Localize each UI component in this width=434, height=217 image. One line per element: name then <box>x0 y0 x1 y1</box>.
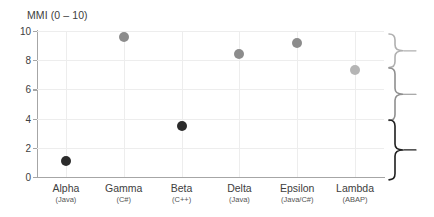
gridline-vertical <box>124 31 125 177</box>
x-axis-label-language: (Java/C#) <box>280 194 314 205</box>
gridline-horizontal <box>37 119 384 120</box>
y-axis-tick-mark <box>33 89 37 90</box>
x-axis-label-language: (C#) <box>105 194 142 205</box>
bottom-band-brace <box>388 120 404 180</box>
gridline-vertical <box>182 31 183 177</box>
gridline-vertical <box>355 31 356 177</box>
mmi-scatter-chart: MMI (0 – 10) 0246810 Alpha(Java)Gamma(C#… <box>0 0 434 217</box>
x-axis-label-delta: Delta(Java) <box>227 182 252 205</box>
x-axis-label-alpha: Alpha(Java) <box>52 182 79 205</box>
data-point[interactable] <box>177 121 187 131</box>
data-point[interactable] <box>234 49 244 59</box>
plot-area <box>37 31 384 177</box>
gridline-horizontal <box>37 60 384 61</box>
x-axis-label-gamma: Gamma(C#) <box>105 182 142 205</box>
y-axis-tick-mark <box>33 31 37 32</box>
x-axis-label-name: Gamma <box>105 182 142 194</box>
x-axis-label-name: Epsilon <box>280 182 314 194</box>
x-axis-label-epsilon: Epsilon(Java/C#) <box>280 182 314 205</box>
chart-title: MMI (0 – 10) <box>27 9 88 21</box>
x-axis-label-lambda: Lambda(ABAP) <box>336 182 374 205</box>
x-axis-label-language: (Java) <box>227 194 252 205</box>
y-axis-tick-mark <box>33 148 37 149</box>
y-axis-tick-label: 10 <box>9 26 31 37</box>
top-band-brace <box>388 34 404 68</box>
middle-band-brace <box>388 68 404 121</box>
gridline-horizontal <box>37 89 384 90</box>
y-axis-tick-label: 2 <box>9 142 31 153</box>
y-axis-tick-mark <box>33 177 37 178</box>
data-point[interactable] <box>61 156 71 166</box>
x-axis-label-language: (C++) <box>171 194 193 205</box>
gridline-vertical <box>297 31 298 177</box>
x-axis-label-language: (ABAP) <box>336 194 374 205</box>
data-point[interactable] <box>350 65 360 75</box>
x-axis-label-language: (Java) <box>52 194 79 205</box>
x-axis-label-name: Lambda <box>336 182 374 194</box>
x-axis-label-name: Alpha <box>52 182 79 194</box>
y-axis-tick-label: 8 <box>9 55 31 66</box>
y-axis-tick-label: 4 <box>9 113 31 124</box>
y-axis-tick-mark <box>33 60 37 61</box>
data-point[interactable] <box>292 38 302 48</box>
y-axis-tick-label: 6 <box>9 84 31 95</box>
x-axis-line <box>37 177 385 178</box>
data-point[interactable] <box>119 32 129 42</box>
x-axis-label-name: Delta <box>227 182 252 194</box>
x-axis-label-beta: Beta(C++) <box>171 182 193 205</box>
y-axis-tick-mark <box>33 119 37 120</box>
gridline-horizontal <box>37 148 384 149</box>
y-axis-tick-label: 0 <box>9 172 31 183</box>
x-axis-label-name: Beta <box>171 182 193 194</box>
gridline-horizontal <box>37 31 384 32</box>
